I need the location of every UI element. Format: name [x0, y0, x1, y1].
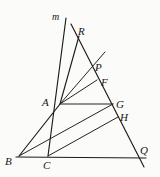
segment-C-H	[48, 117, 118, 156]
label-G: G	[116, 99, 124, 110]
segment-B-G	[19, 104, 113, 156]
line-B-A-R-extended	[19, 36, 79, 156]
label-F: F	[101, 77, 108, 88]
label-Q: Q	[140, 145, 148, 156]
label-m: m	[52, 12, 59, 22]
label-C: C	[43, 160, 50, 171]
label-P: P	[95, 62, 102, 73]
label-H: H	[120, 112, 128, 123]
transversal-R-Q	[71, 24, 144, 167]
baseline-B-Q	[16, 157, 146, 158]
label-R: R	[78, 26, 85, 37]
label-B: B	[5, 156, 12, 167]
geometry-figure: m R P F A G H B C Q	[0, 0, 160, 177]
label-A: A	[42, 97, 49, 108]
